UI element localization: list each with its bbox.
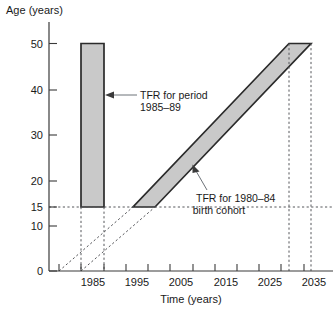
y-tick-label-15: 15 (31, 201, 43, 213)
x-tick-label-1985: 1985 (81, 276, 105, 288)
x-axis-title: Time (years) (160, 293, 221, 305)
y-tick-label-0: 0 (37, 265, 43, 277)
cohort-annotation-line2: birth cohort (193, 204, 246, 216)
y-tick-label-50: 50 (31, 38, 43, 50)
tfr-lexis-diagram: 50 40 30 20 15 10 0 1985 1995 2005 2015 … (0, 0, 335, 317)
cohort-guide-1980 (59, 207, 133, 271)
cohort-annotation-line1: TFR for 1980–84 (196, 192, 276, 204)
cohort-annotation-arrowhead (193, 165, 200, 174)
period-annotation-arrowhead (105, 92, 114, 99)
period-tfr-band (81, 44, 104, 208)
cohort-annotation-leader (196, 171, 207, 190)
x-tick-label-2025: 2025 (258, 276, 282, 288)
chart-figure: 50 40 30 20 15 10 0 1985 1995 2005 2015 … (0, 0, 335, 317)
period-annotation-line2: 1985–89 (140, 101, 181, 113)
x-tick-label-2015: 2015 (214, 276, 238, 288)
x-tick-label-1995: 1995 (125, 276, 149, 288)
y-axis-title: Age (years) (6, 4, 63, 16)
y-tick-label-30: 30 (31, 129, 43, 141)
y-tick-label-10: 10 (31, 220, 43, 232)
cohort-tfr-band (133, 44, 311, 208)
x-tick-label-2005: 2005 (169, 276, 193, 288)
y-tick-label-40: 40 (31, 84, 43, 96)
period-annotation-line1: TFR for period (140, 89, 208, 101)
y-tick-label-20: 20 (31, 175, 43, 187)
cohort-guide-1985 (81, 207, 155, 271)
x-tick-label-2035: 2035 (302, 276, 326, 288)
